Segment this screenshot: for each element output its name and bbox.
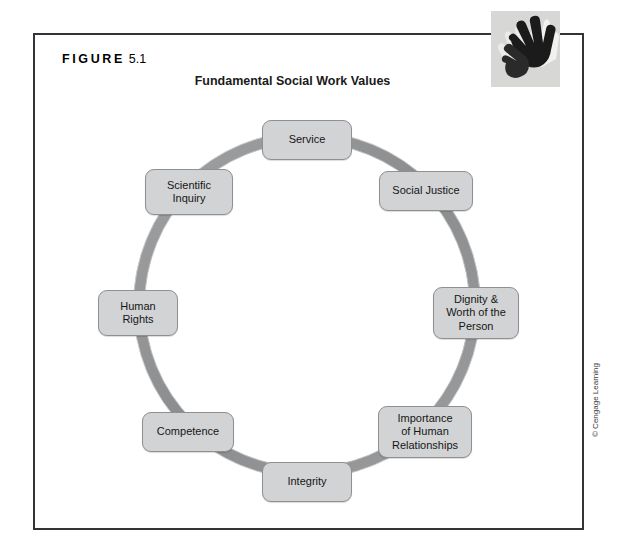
node-competence-label: Competence [157,425,219,439]
node-social-justice[interactable]: Social Justice [379,171,473,211]
node-competence[interactable]: Competence [142,412,234,452]
node-service[interactable]: Service [262,120,352,160]
node-scientific-inquiry-label: Scientific Inquiry [167,179,211,206]
node-dignity-worth-person[interactable]: Dignity & Worth of the Person [433,287,519,339]
figure-label-word: FIGURE [62,52,125,66]
figure-frame [33,33,584,530]
figure-label-number: 5.1 [129,52,146,66]
node-social-justice-label: Social Justice [392,184,459,198]
node-importance-human-relationships[interactable]: Importance of Human Relationships [378,406,472,458]
node-dignity-worth-person-label: Dignity & Worth of the Person [446,293,506,334]
node-integrity-label: Integrity [287,475,326,489]
node-human-rights[interactable]: Human Rights [98,290,178,336]
node-integrity[interactable]: Integrity [262,462,352,502]
copyright-credit: © Cengage Learning [591,363,600,437]
node-human-rights-label: Human Rights [120,300,155,327]
node-importance-human-relationships-label: Importance of Human Relationships [392,412,458,453]
node-scientific-inquiry[interactable]: Scientific Inquiry [145,169,233,215]
hands-photo-thumbnail [491,11,560,87]
figure-label: FIGURE5.1 [62,52,146,66]
node-service-label: Service [289,133,326,147]
